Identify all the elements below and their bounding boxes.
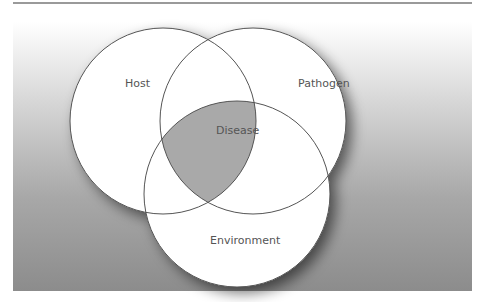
disease-label: Disease <box>216 124 259 137</box>
host-label: Host <box>125 77 151 90</box>
environment-label: Environment <box>210 234 281 247</box>
venn-diagram: Host Pathogen Disease Environment <box>0 0 484 302</box>
pathogen-label: Pathogen <box>298 77 350 90</box>
